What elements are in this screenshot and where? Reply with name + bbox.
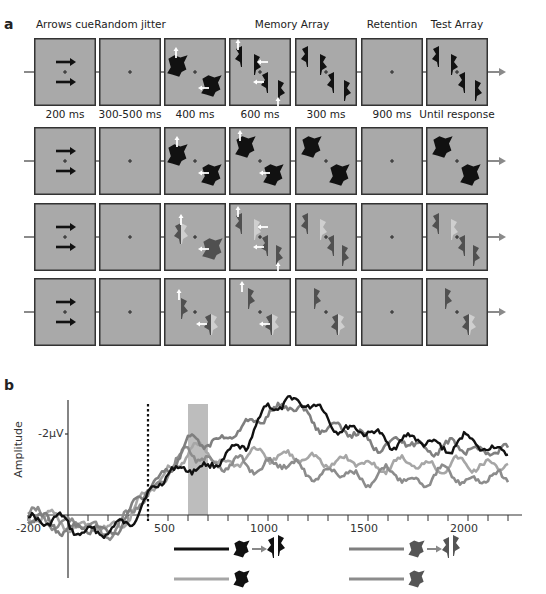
legend-glyph [233,535,285,558]
legend-glyph [408,570,424,587]
legend-glyph [233,570,249,587]
legend-glyph [408,535,460,558]
erp-chart [0,0,546,594]
